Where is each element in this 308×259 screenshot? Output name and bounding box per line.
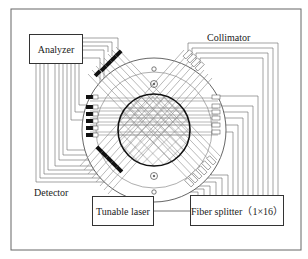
analyzer-label: Analyzer <box>38 44 75 55</box>
tunable-laser-box: Tunable laser <box>92 196 154 226</box>
tunable-laser-label: Tunable laser <box>96 206 150 217</box>
detector-label: Detector <box>34 187 68 198</box>
fiber-splitter-label: Fiber splitter（1×16） <box>191 203 283 218</box>
analyzer-box: Analyzer <box>29 34 83 64</box>
collimator-label: Collimator <box>207 32 250 43</box>
diagram-canvas: Analyzer Tunable laser Fiber splitter（1×… <box>0 0 308 259</box>
fiber-splitter-box: Fiber splitter（1×16） <box>190 195 284 226</box>
